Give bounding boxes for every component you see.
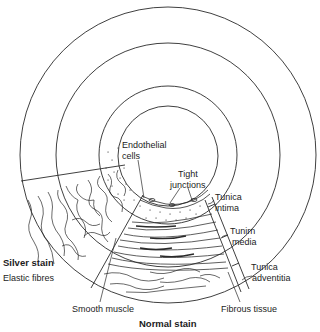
tight-junctions-label-2: junctions [170,180,206,191]
silver-stain-label: Silver stain [3,257,54,268]
smooth-muscle-label: Smooth muscle [72,304,134,315]
endothelial-label-1: Endothelial [122,140,167,151]
elastic-fibres-label: Elastic fibres [3,273,54,284]
fibrous-tissue-label: Fibrous tissue [221,304,277,315]
tunica-adventitia-label-2: adventitia [252,273,291,284]
tunica-media-label-1: Tunirn [230,226,255,237]
stain-divider-line [91,195,143,288]
tunica-adventitia-label-1: Tunica [251,262,278,273]
normal-stain-label: Normal stain [139,318,197,329]
band-tick-3 [232,263,239,266]
tunica-intima-label-2: intima [215,203,239,214]
tunica-intima-label-1: Tunica [215,192,242,203]
endothelial-label-2: cells [122,151,140,162]
vessel-diagram: Endothelial cells Tight junctions Tunica… [0,0,320,332]
tight-junctions-label-1: Tight [178,169,198,180]
outer-circle [20,7,316,303]
fibrous-tissue [104,268,220,292]
tunica-media-label-2: media [232,237,257,248]
smooth-muscle-fibres [108,214,228,270]
silver-wedge-top-line [21,165,125,181]
elastic-fibres [28,170,126,264]
